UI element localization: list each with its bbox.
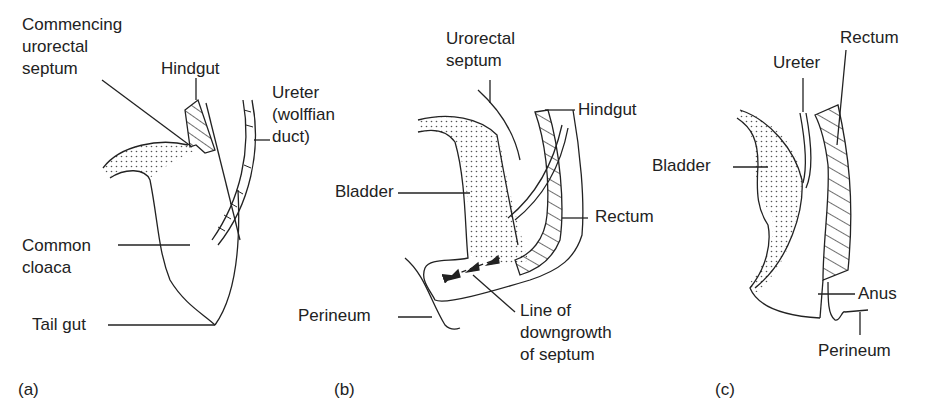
- label-bladder-c: Bladder: [652, 155, 711, 177]
- label-line-of-downgrowth: Line of downgrowth of septum: [520, 300, 612, 366]
- label-common-cloaca: Common cloaca: [22, 235, 91, 279]
- label-tail-gut: Tail gut: [32, 314, 86, 336]
- label-hindgut-b: Hindgut: [578, 99, 637, 121]
- label-hindgut-a: Hindgut: [161, 58, 220, 80]
- embryology-figure: Commencing urorectal septum Hindgut Uret…: [0, 0, 925, 418]
- label-rectum-b: Rectum: [595, 206, 654, 228]
- label-bladder-b: Bladder: [335, 181, 394, 203]
- label-perineum-c: Perineum: [818, 340, 891, 362]
- panel-b-drawing: [398, 80, 588, 329]
- label-ureter-c: Ureter: [773, 52, 820, 74]
- panel-label-c: (c): [715, 380, 735, 400]
- label-rectum-c: Rectum: [840, 27, 899, 49]
- label-perineum-b: Perineum: [298, 305, 371, 327]
- panel-a-drawing: [102, 78, 270, 325]
- label-ureter-wolffian-duct: Ureter (wolffian duct): [272, 82, 335, 148]
- label-urorectal-septum: Urorectal septum: [446, 28, 515, 72]
- panel-label-a: (a): [18, 380, 39, 400]
- panel-label-b: (b): [334, 380, 355, 400]
- label-commencing-urorectal-septum: Commencing urorectal septum: [22, 14, 122, 80]
- label-anus: Anus: [858, 283, 897, 305]
- panel-c-drawing: [733, 50, 868, 335]
